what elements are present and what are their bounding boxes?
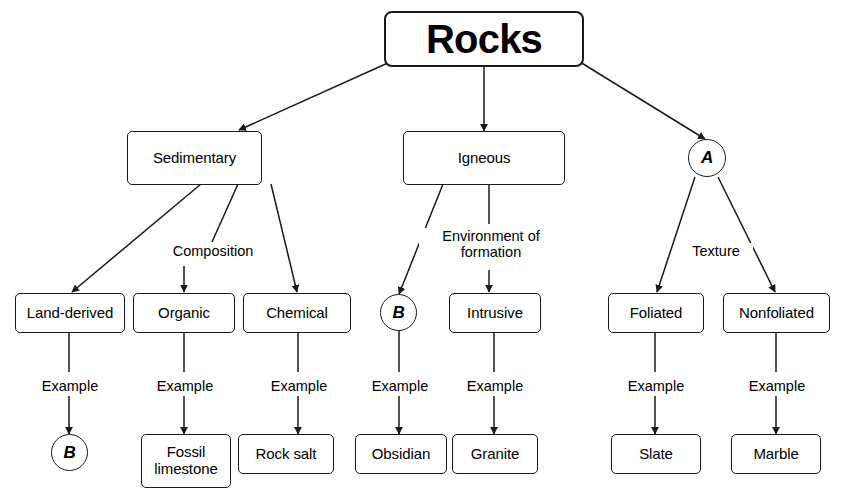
edge-sedimentary-land-derived — [72, 184, 201, 292]
node-foliated[interactable]: Foliated — [608, 293, 704, 333]
edge-sedimentary-composition-stem — [212, 184, 238, 242]
node-rocks[interactable]: Rocks — [384, 11, 584, 67]
node-nonfoliated[interactable]: Nonfoliated — [723, 293, 830, 333]
node-intrusive[interactable]: Intrusive — [449, 293, 541, 333]
node-fossil-limestone[interactable]: Fossil limestone — [141, 434, 231, 488]
edge-label-example-chemical: Example — [258, 378, 340, 394]
edge-label-composition: Composition — [142, 243, 284, 259]
edge-metamorphic-nonfoliated — [718, 177, 775, 292]
edge-label-example-nonfoliated: Example — [736, 378, 818, 394]
edge-label-example-extrusive: Example — [359, 378, 441, 394]
node-slate[interactable]: Slate — [611, 434, 701, 474]
edge-rocks-sedimentary — [239, 62, 390, 130]
edge-rocks-metamorphic — [580, 62, 705, 139]
edge-label-example-land-derived: Example — [29, 378, 111, 394]
node-igneous[interactable]: Igneous — [403, 131, 565, 185]
edge-metamorphic-foliated — [657, 177, 695, 292]
node-sedimentary[interactable]: Sedimentary — [127, 131, 262, 185]
node-obsidian[interactable]: Obsidian — [355, 434, 447, 474]
edge-sedimentary-chemical — [271, 184, 297, 292]
concept-map-diagram: Rocks Sedimentary Igneous A Composition … — [0, 0, 853, 498]
edge-label-environment-of-formation: Environment of formation — [419, 228, 563, 260]
node-land-derived[interactable]: Land-derived — [15, 293, 125, 333]
node-metamorphic-blank-a[interactable]: A — [688, 139, 726, 177]
node-marble[interactable]: Marble — [731, 434, 821, 474]
node-organic[interactable]: Organic — [133, 293, 235, 333]
node-rock-salt[interactable]: Rock salt — [238, 434, 334, 474]
node-granite[interactable]: Granite — [452, 434, 538, 474]
node-land-derived-example-blank-b[interactable]: B — [51, 434, 88, 471]
edge-label-example-intrusive: Example — [454, 378, 536, 394]
node-extrusive-blank-b[interactable]: B — [380, 294, 417, 331]
edge-label-example-organic: Example — [144, 378, 226, 394]
edge-label-example-foliated: Example — [615, 378, 697, 394]
node-chemical[interactable]: Chemical — [243, 293, 351, 333]
edge-label-texture: Texture — [679, 243, 753, 259]
